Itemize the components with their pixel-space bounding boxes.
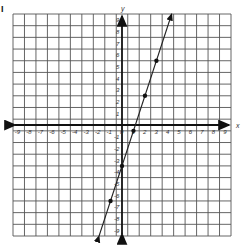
data-point: [120, 164, 124, 168]
y-tick-label: 1: [116, 111, 119, 117]
x-tick-label: 6: [189, 129, 193, 135]
x-tick-label: 4: [166, 129, 170, 135]
y-tick-label: -6: [114, 193, 120, 199]
y-tick-label: 4: [116, 76, 120, 82]
data-point: [131, 129, 135, 133]
y-tick-label: 5: [116, 64, 120, 70]
y-tick-label: 6: [116, 52, 120, 58]
data-point: [143, 94, 147, 98]
y-tick-label: -2: [114, 146, 120, 152]
y-axis-label: y: [120, 5, 125, 13]
y-tick-label: 2: [115, 99, 120, 105]
x-tick-label: 8: [212, 129, 216, 135]
x-tick-label: -4: [72, 129, 78, 135]
x-tick-label: 7: [200, 129, 204, 135]
y-tick-label: -1: [114, 134, 119, 140]
x-axis-label: x: [235, 122, 240, 129]
x-tick-label: 5: [177, 129, 181, 135]
x-tick-label: -5: [61, 129, 67, 135]
y-tick-label: -3: [114, 158, 120, 164]
y-tick-label: 9: [116, 17, 120, 23]
x-tick-label: -2: [95, 129, 101, 135]
y-tick-label: -8: [114, 216, 120, 222]
coordinate-plane: xy-9-8-7-6-5-4-3-2-10123456789-9-8-7-6-5…: [0, 0, 246, 251]
data-point: [108, 199, 112, 203]
x-tick-label: 3: [154, 129, 158, 135]
x-tick-label: 2: [142, 129, 147, 135]
x-tick-label: -8: [26, 129, 32, 135]
x-tick-label: -6: [49, 129, 55, 135]
x-tick-label: -9: [15, 129, 21, 135]
y-tick-label: 7: [116, 41, 120, 47]
x-tick-label: 0: [120, 129, 124, 135]
x-tick-label: -3: [84, 129, 90, 135]
x-tick-label: 9: [223, 129, 227, 135]
y-tick-label: -7: [114, 204, 120, 210]
data-point: [154, 59, 158, 63]
y-tick-label: 3: [116, 87, 120, 93]
y-tick-label: -9: [114, 228, 120, 234]
y-tick-label: 8: [116, 29, 120, 35]
x-tick-label: -1: [107, 129, 112, 135]
x-tick-label: -7: [38, 129, 44, 135]
